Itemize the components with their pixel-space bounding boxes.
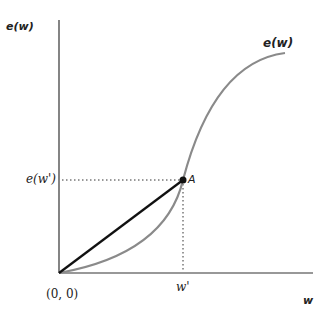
- point-label: A: [188, 173, 196, 186]
- curve-e-w: [59, 53, 285, 273]
- ray-from-origin: [59, 180, 183, 273]
- y-tick-label: e(w'): [26, 172, 56, 186]
- origin-label: (0, 0): [46, 287, 78, 301]
- y-axis-label: e(w): [6, 20, 34, 33]
- x-axis-label: w: [303, 294, 313, 307]
- diagram: e(w) e(w) e(w') A (0, 0) w' w: [0, 0, 330, 319]
- x-tick-label: w': [176, 280, 190, 294]
- curve-label: e(w): [263, 36, 293, 50]
- point-A: [180, 177, 187, 184]
